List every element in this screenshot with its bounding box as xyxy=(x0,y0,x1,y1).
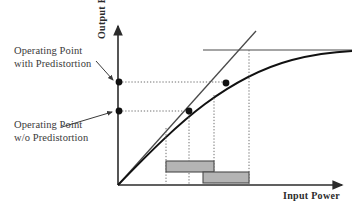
annotation-with-predistortion-line1: Operating Point xyxy=(14,44,91,57)
curve-dot-wo-pd xyxy=(186,108,193,115)
axis-dot-with-pd xyxy=(116,79,123,86)
leader-line-with-predistortion xyxy=(96,61,113,80)
x-axis-label: Input Power xyxy=(283,190,340,201)
y-axis-label: Output Power xyxy=(96,0,107,39)
input-range-with-predistortion xyxy=(203,172,249,183)
nonlinear-amplifier-curve xyxy=(118,51,352,185)
annotation-without-predistortion: Operating Point w/o Predistortion xyxy=(14,118,88,144)
axis-dot-wo-pd xyxy=(116,108,123,115)
curve-dot-with-pd xyxy=(223,80,230,87)
annotation-without-predistortion-line1: Operating Point xyxy=(14,118,88,131)
input-range-without-predistortion xyxy=(166,161,214,172)
annotation-with-predistortion: Operating Point with Predistortion xyxy=(14,44,91,70)
diagram-canvas xyxy=(0,0,357,209)
annotation-with-predistortion-line2: with Predistortion xyxy=(14,57,91,70)
range-bars-group xyxy=(166,161,249,183)
operating-point-dots-group xyxy=(116,79,230,115)
annotation-without-predistortion-line2: w/o Predistortion xyxy=(14,131,88,144)
amplifier-transfer-characteristic-figure: Operating Point with Predistortion Opera… xyxy=(0,0,357,209)
